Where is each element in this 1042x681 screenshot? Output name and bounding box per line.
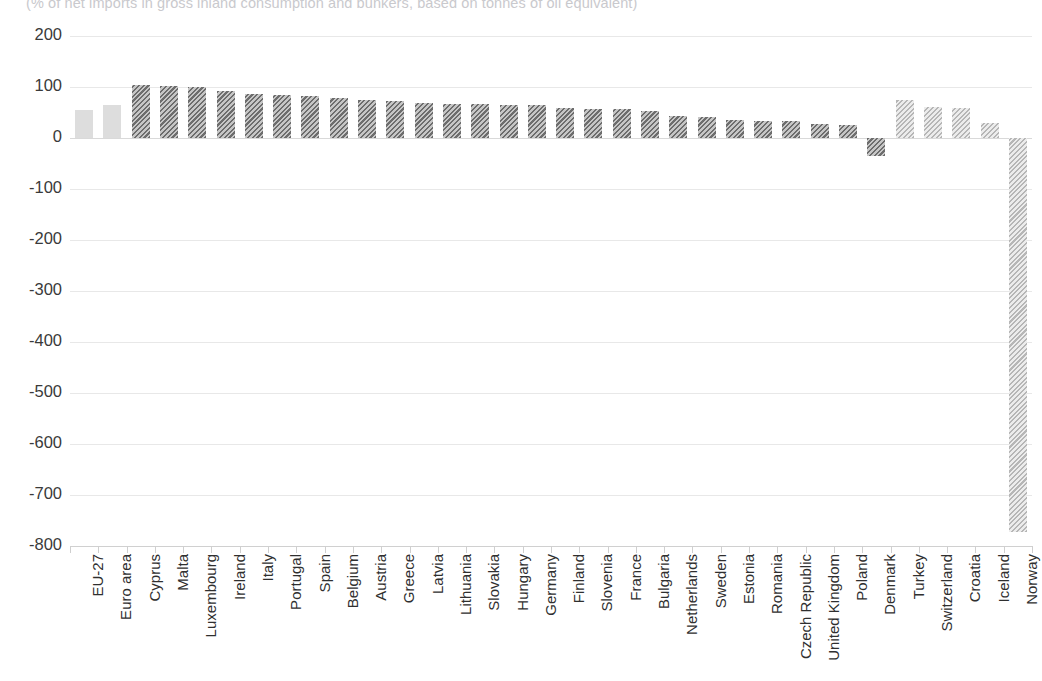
bar-ireland[interactable] (217, 91, 235, 138)
bar-slot (183, 36, 211, 546)
bar-slovakia[interactable] (471, 104, 489, 138)
x-axis-label-denmark: Denmark (882, 554, 897, 681)
x-axis-label-iceland: Iceland (996, 554, 1011, 681)
bar-slot (692, 36, 720, 546)
x-axis-label-cyprus: Cyprus (147, 554, 162, 681)
bar-slot (862, 36, 890, 546)
x-axis-label-luxembourg: Luxembourg (203, 554, 218, 681)
bar-slot (466, 36, 494, 546)
bar-iceland[interactable] (981, 123, 999, 138)
bar-slovenia[interactable] (584, 109, 602, 138)
bar-austria[interactable] (358, 100, 376, 138)
x-axis-tick (1032, 546, 1033, 553)
x-axis-tick (975, 546, 976, 553)
x-axis-tick (579, 546, 580, 553)
bar-eu-27[interactable] (75, 110, 93, 138)
x-axis-tick (268, 546, 269, 553)
x-axis-tick (466, 546, 467, 553)
x-axis-tick (834, 546, 835, 553)
bar-slot (1004, 36, 1032, 546)
bar-slot (325, 36, 353, 546)
x-axis-label-czech-republic: Czech Republic (798, 554, 813, 681)
x-axis-tick (862, 546, 863, 553)
bar-slot (155, 36, 183, 546)
x-axis-tick (947, 546, 948, 553)
bar-luxembourg[interactable] (188, 87, 206, 138)
x-axis-label-slovakia: Slovakia (486, 554, 501, 681)
bar-hungary[interactable] (500, 105, 518, 138)
bar-france[interactable] (613, 109, 631, 138)
x-axis-label-norway: Norway (1024, 554, 1039, 681)
bar-italy[interactable] (245, 94, 263, 138)
y-axis-tick-label: 100 (0, 76, 62, 95)
x-axis-label-belgium: Belgium (345, 554, 360, 681)
bar-malta[interactable] (160, 86, 178, 138)
bar-slot (777, 36, 805, 546)
bar-estonia[interactable] (726, 120, 744, 138)
x-axis-tick (325, 546, 326, 553)
x-axis-label-romania: Romania (769, 554, 784, 681)
y-axis-tick-label: -700 (0, 484, 62, 503)
bar-slot (947, 36, 975, 546)
x-axis-label-switzerland: Switzerland (939, 554, 954, 681)
bar-spain[interactable] (301, 96, 319, 138)
x-axis-label-portugal: Portugal (288, 554, 303, 681)
bar-croatia[interactable] (952, 108, 970, 138)
bar-czech-republic[interactable] (782, 121, 800, 138)
bar-slot (664, 36, 692, 546)
bar-lithuania[interactable] (443, 104, 461, 138)
bar-slot (268, 36, 296, 546)
bar-slot (410, 36, 438, 546)
bar-sweden[interactable] (698, 117, 716, 138)
bar-slot (749, 36, 777, 546)
x-axis-tick (381, 546, 382, 553)
bar-bulgaria[interactable] (641, 111, 659, 138)
x-axis-tick (777, 546, 778, 553)
bar-slot (891, 36, 919, 546)
y-axis-tick-label: 200 (0, 25, 62, 44)
x-axis-label-finland: Finland (571, 554, 586, 681)
x-axis-label-austria: Austria (373, 554, 388, 681)
y-axis-tick-label: -800 (0, 535, 62, 554)
bar-belgium[interactable] (330, 98, 348, 138)
x-axis-tick (523, 546, 524, 553)
x-axis-tick (183, 546, 184, 553)
bar-united-kingdom[interactable] (811, 124, 829, 138)
bar-portugal[interactable] (273, 95, 291, 138)
y-axis-tick-label: -100 (0, 178, 62, 197)
x-axis-label-poland: Poland (854, 554, 869, 681)
x-axis-tick (127, 546, 128, 553)
bar-slot (806, 36, 834, 546)
bar-cyprus[interactable] (132, 85, 150, 138)
bar-turkey[interactable] (896, 100, 914, 138)
bar-euro-area[interactable] (103, 105, 121, 138)
bar-slot (381, 36, 409, 546)
bar-denmark[interactable] (867, 138, 885, 156)
bar-netherlands[interactable] (669, 116, 687, 138)
x-axis-label-greece: Greece (401, 554, 416, 681)
bar-slot (579, 36, 607, 546)
bar-slot (721, 36, 749, 546)
bar-norway[interactable] (1009, 138, 1027, 532)
x-axis-tick (1004, 546, 1005, 553)
bar-slot (551, 36, 579, 546)
bar-germany[interactable] (528, 105, 546, 138)
bar-poland[interactable] (839, 125, 857, 138)
bar-finland[interactable] (556, 108, 574, 138)
x-axis-label-hungary: Hungary (515, 554, 530, 681)
bar-latvia[interactable] (415, 103, 433, 138)
x-axis-tick (438, 546, 439, 553)
y-axis-labels: 2001000-100-200-300-400-500-600-700-800 (0, 36, 62, 546)
x-axis-label-euro-area: Euro area (118, 554, 133, 681)
bar-series (70, 36, 1032, 546)
bar-slot (240, 36, 268, 546)
x-axis-tick (296, 546, 297, 553)
x-axis-ticks (70, 546, 1032, 554)
bar-slot (353, 36, 381, 546)
bar-romania[interactable] (754, 121, 772, 138)
bar-slot (608, 36, 636, 546)
bar-switzerland[interactable] (924, 107, 942, 138)
bar-greece[interactable] (386, 101, 404, 138)
x-axis-label-croatia: Croatia (967, 554, 982, 681)
bar-slot (919, 36, 947, 546)
